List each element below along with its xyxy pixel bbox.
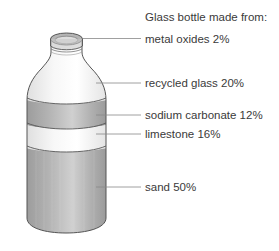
bottle-mouth	[51, 33, 83, 50]
label-metal-oxides: metal oxides 2%	[145, 32, 229, 46]
glass-bottle-diagram: Glass bottle made from: metal oxides 2% …	[0, 0, 279, 251]
diagram-title: Glass bottle made from:	[145, 10, 267, 24]
bottle-body	[20, 30, 115, 240]
label-recycled-glass: recycled glass 20%	[145, 76, 244, 90]
label-sodium-carbonate: sodium carbonate 12%	[145, 108, 263, 122]
bottle-illustration	[0, 0, 279, 251]
label-limestone: limestone 16%	[145, 127, 220, 141]
label-sand: sand 50%	[145, 180, 196, 194]
